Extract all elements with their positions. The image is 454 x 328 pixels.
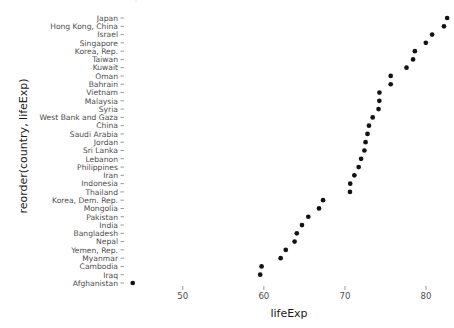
- data-point: [411, 57, 416, 62]
- x-tick-label: 80: [421, 291, 432, 301]
- plot-canvas: JapanHong Kong, ChinaIsraelSingaporeKore…: [0, 0, 454, 328]
- data-point: [442, 24, 447, 29]
- data-point: [445, 16, 450, 21]
- panel-background: [126, 10, 452, 282]
- data-point: [130, 281, 135, 286]
- data-point: [359, 156, 364, 161]
- data-point: [278, 256, 283, 261]
- data-point: [423, 40, 428, 45]
- data-point: [306, 214, 311, 219]
- data-point: [356, 165, 361, 170]
- data-point: [258, 272, 263, 277]
- data-point: [413, 49, 418, 54]
- data-point: [388, 74, 393, 79]
- data-point: [352, 173, 357, 178]
- data-point: [377, 90, 382, 95]
- data-point: [283, 248, 288, 253]
- data-point: [430, 32, 435, 37]
- data-point: [404, 65, 409, 70]
- data-point: [376, 107, 381, 112]
- data-point: [292, 239, 297, 244]
- data-point: [348, 190, 353, 195]
- data-point: [370, 115, 375, 120]
- data-point: [294, 231, 299, 236]
- data-point: [259, 264, 264, 269]
- data-point: [321, 198, 326, 203]
- y-axis-title: reorder(country, lifeExp): [17, 78, 30, 213]
- data-point: [377, 98, 382, 103]
- data-point: [367, 123, 372, 128]
- scatter-plot-figure: JapanHong Kong, ChinaIsraelSingaporeKore…: [0, 0, 454, 328]
- data-point: [362, 148, 367, 153]
- data-point: [388, 82, 393, 87]
- data-point: [348, 181, 353, 186]
- x-axis-title: lifeExp: [270, 307, 307, 320]
- x-tick-label: 60: [258, 291, 269, 301]
- x-tick-label: 50: [177, 291, 188, 301]
- y-tick-label: Afghanistan: [73, 279, 118, 288]
- x-tick-label: 70: [339, 291, 350, 301]
- data-point: [365, 132, 370, 137]
- data-point: [363, 140, 368, 145]
- data-point: [300, 223, 305, 228]
- data-point: [317, 206, 322, 211]
